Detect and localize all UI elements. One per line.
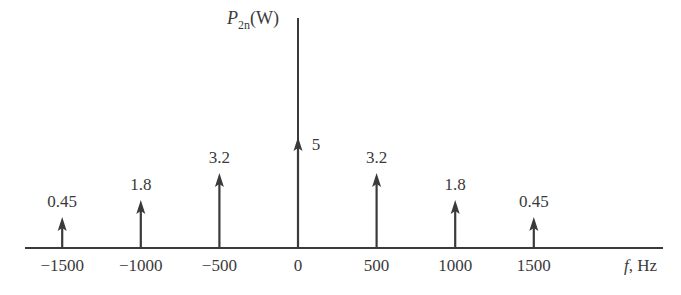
value-label: 3.2 <box>366 148 387 168</box>
value-label: 1.8 <box>130 175 151 195</box>
x-tick-label: −500 <box>202 256 237 276</box>
x-axis-label: f, Hz <box>624 256 657 276</box>
y-axis-label: P2n(W) <box>227 8 279 33</box>
x-tick-label: −1500 <box>40 256 84 276</box>
value-label: 3.2 <box>209 148 230 168</box>
value-label: 1.8 <box>445 175 466 195</box>
value-label: 0.45 <box>47 192 77 212</box>
x-tick-label: −1000 <box>119 256 163 276</box>
x-tick-label: 1500 <box>517 256 551 276</box>
value-label: 0.45 <box>519 192 549 212</box>
x-tick-label: 1000 <box>438 256 472 276</box>
x-tick-label: 500 <box>364 256 390 276</box>
value-label: 5 <box>312 135 321 155</box>
power-spectrum-chart <box>0 0 681 295</box>
x-tick-label: 0 <box>294 256 303 276</box>
